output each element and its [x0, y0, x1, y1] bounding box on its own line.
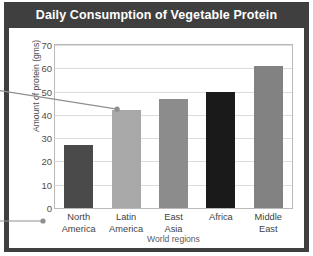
y-axis-title: Amount of protein (gms) — [31, 11, 41, 161]
bar-africa — [206, 92, 235, 208]
x-tick-label-middle-east: MiddleEast — [245, 212, 292, 235]
bars-layer — [55, 45, 292, 208]
x-tick-label-east-asia: EastAsia — [150, 212, 197, 235]
y-tick-label: 10 — [26, 179, 52, 190]
chart-screenshot: Daily Consumption of Vegetable Protein 0… — [0, 0, 313, 256]
bar-middle-east — [254, 66, 283, 208]
bar-north-america — [64, 145, 93, 208]
x-tick-label-latin-america: LatinAmerica — [102, 212, 149, 235]
chart-title: Daily Consumption of Vegetable Protein — [4, 2, 309, 28]
bar-latin-america — [112, 110, 141, 208]
bar-east-asia — [159, 99, 188, 208]
y-tick-label: 0 — [26, 203, 52, 214]
x-axis-title: World regions — [54, 234, 293, 244]
x-tick-label-north-america: NorthAmerica — [55, 212, 102, 235]
chart-plot-card: 010203040506070 Amount of protein (gms) … — [9, 28, 304, 248]
x-tick-label-africa: Africa — [197, 212, 244, 224]
